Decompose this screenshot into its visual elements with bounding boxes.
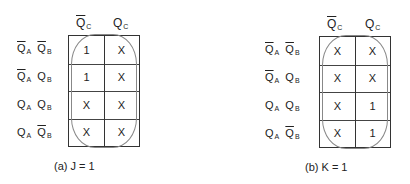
variable: QB: [37, 126, 51, 138]
variable: QB: [37, 70, 51, 82]
row-header: QA QB: [17, 70, 52, 83]
row-header: QA QB: [17, 126, 52, 139]
row-header: QA QB: [265, 127, 300, 140]
grouping-loop: [71, 34, 137, 148]
column-header: QC: [327, 17, 342, 31]
column-header: QC: [113, 16, 128, 30]
row-header: QA QB: [265, 71, 300, 84]
column-header: QC: [76, 16, 91, 30]
map-caption: (a) J = 1: [54, 160, 95, 172]
variable: QB: [37, 42, 51, 54]
variable: QC: [327, 17, 342, 31]
variable: QA: [17, 98, 31, 110]
variable: QB: [285, 127, 299, 139]
variable: QC: [365, 17, 380, 31]
row-header: QA QB: [265, 99, 300, 112]
variable: QA: [17, 42, 31, 54]
variable: QB: [285, 43, 299, 55]
variable: QA: [265, 43, 279, 55]
column-header: QC: [365, 17, 380, 31]
variable: QC: [76, 16, 91, 30]
row-header: QA QB: [265, 43, 300, 56]
grouping-loop: [322, 35, 388, 149]
variable: QB: [37, 98, 51, 110]
variable: QA: [265, 71, 279, 83]
variable: QA: [265, 127, 279, 139]
variable: QB: [285, 99, 299, 111]
variable: QA: [265, 99, 279, 111]
variable: QB: [285, 71, 299, 83]
variable: QC: [113, 16, 128, 30]
map-caption: (b) K = 1: [305, 161, 348, 173]
row-header: QA QB: [17, 98, 52, 111]
variable: QA: [17, 126, 31, 138]
variable: QA: [17, 70, 31, 82]
row-header: QA QB: [17, 42, 52, 55]
